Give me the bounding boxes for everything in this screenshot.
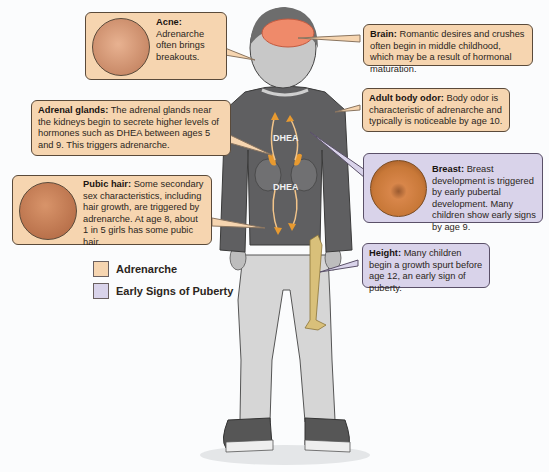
acne-image <box>92 18 150 76</box>
adrenal-title: Adrenal glands: <box>38 105 108 115</box>
dhea-label-top: DHEA <box>273 133 299 143</box>
legend-swatch-early-puberty <box>93 283 109 299</box>
legend-label: Adrenarche <box>116 263 177 275</box>
breast-image <box>370 160 427 217</box>
legend-label: Early Signs of Puberty <box>116 285 233 297</box>
pubic-hair-image <box>19 182 77 240</box>
legend-swatch-adrenarche <box>93 261 109 277</box>
pubic-title: Pubic hair: <box>83 179 131 189</box>
pubic-body: Some secondary sex characteristics, incl… <box>83 179 203 247</box>
acne-body: Adrenarche often brings breakouts. <box>156 29 205 62</box>
callout-body-odor: Adult body odor: Body odor is characteri… <box>362 88 510 132</box>
legend-item-early-puberty: Early Signs of Puberty <box>93 283 233 299</box>
legend-item-adrenarche: Adrenarche <box>93 261 177 277</box>
callout-breast: Breast: Breast development is triggered … <box>363 153 543 223</box>
height-title: Height: <box>369 248 401 258</box>
acne-title: Acne: <box>156 17 182 27</box>
callout-pubic-hair: Pubic hair: Some secondary sex character… <box>12 175 212 245</box>
brain-title: Brain: <box>370 29 397 39</box>
odor-title: Adult body odor: <box>369 93 444 103</box>
callout-adrenal-glands: Adrenal glands: The adrenal glands near … <box>31 100 231 156</box>
breast-body: Breast development is triggered by early… <box>432 164 536 232</box>
callout-acne: Acne: Adrenarche often brings breakouts. <box>85 12 227 80</box>
dhea-label-bottom: DHEA <box>273 182 299 192</box>
callout-height: Height: Many children begin a growth spu… <box>362 243 490 288</box>
callout-brain: Brain: Romantic desires and crushes ofte… <box>363 24 533 66</box>
breast-title: Breast: <box>432 164 464 174</box>
